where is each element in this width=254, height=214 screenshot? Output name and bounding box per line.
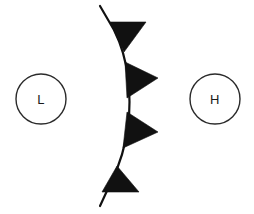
high-pressure-center: H	[190, 74, 240, 124]
front-barb-3-icon	[123, 112, 158, 148]
front-barb-1-icon	[110, 22, 146, 52]
front-barb-4-icon	[102, 166, 139, 192]
high-pressure-label: H	[210, 92, 220, 107]
diagram-canvas: L H	[0, 0, 254, 214]
low-pressure-label: L	[37, 92, 45, 107]
low-pressure-center: L	[16, 74, 66, 124]
front-barb-2-icon	[125, 62, 158, 98]
cold-front-symbol	[100, 6, 158, 206]
weather-front-diagram: L H	[0, 0, 254, 214]
